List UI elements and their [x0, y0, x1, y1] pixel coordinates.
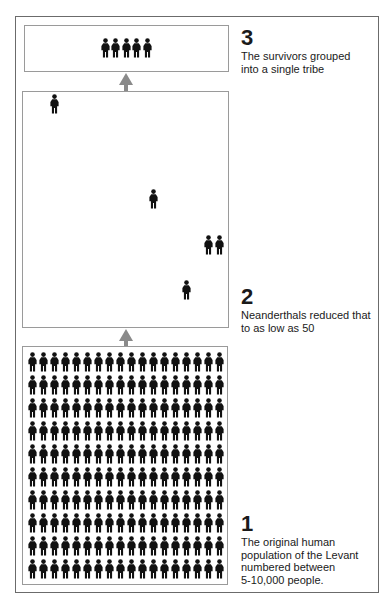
person-icon [71, 351, 82, 374]
person-icon [126, 466, 137, 489]
person-icon [214, 558, 225, 581]
person-icon [192, 466, 203, 489]
person-icon [214, 374, 225, 397]
person-icon [82, 374, 93, 397]
person-icon [148, 535, 159, 558]
person-icon [82, 512, 93, 535]
person-icon [104, 466, 115, 489]
person-icon [192, 443, 203, 466]
person-icon [82, 420, 93, 443]
person-icon [181, 512, 192, 535]
person-icon [115, 397, 126, 420]
person-icon [192, 489, 203, 512]
stage-description-line: 5-10,000 people. [241, 574, 358, 587]
person-icon [192, 374, 203, 397]
person-icon [159, 535, 170, 558]
person-icon [93, 397, 104, 420]
person-icon [38, 374, 49, 397]
person-icon [215, 235, 223, 254]
person-icon [93, 489, 104, 512]
person-icon [126, 512, 137, 535]
person-icon [82, 535, 93, 558]
person-icon [214, 351, 225, 374]
person-icon [170, 443, 181, 466]
person-icon [82, 466, 93, 489]
person-icon [203, 374, 214, 397]
person-icon [60, 512, 71, 535]
person-icon [49, 535, 60, 558]
person-icon [82, 558, 93, 581]
stage-1-label: 1 The original human population of the L… [241, 513, 358, 586]
person-icon [170, 374, 181, 397]
person-icon [49, 420, 60, 443]
stage-description-line: Neanderthals reduced that [241, 309, 371, 322]
person-icon [115, 512, 126, 535]
stage-3-label: 3 The survivors grouped into a single tr… [241, 27, 350, 75]
person-icon [38, 558, 49, 581]
person-icon [60, 397, 71, 420]
person-icon [148, 351, 159, 374]
person-icon [82, 351, 93, 374]
person-icon [170, 535, 181, 558]
person-icon [126, 351, 137, 374]
person-icon [181, 489, 192, 512]
person-icon [104, 535, 115, 558]
stage-2-box [22, 91, 229, 328]
person-icon [104, 558, 115, 581]
person-icon [122, 38, 130, 57]
person-icon [38, 535, 49, 558]
person-icon [214, 466, 225, 489]
person-icon [137, 466, 148, 489]
person-icon [203, 443, 214, 466]
person-icon [104, 512, 115, 535]
person-icon [49, 443, 60, 466]
person-icon [49, 512, 60, 535]
person-icon [49, 351, 60, 374]
person-icon [60, 374, 71, 397]
person-icon [132, 38, 140, 57]
person-icon [27, 535, 38, 558]
person-icon [159, 443, 170, 466]
person-icon [192, 512, 203, 535]
person-icon [214, 489, 225, 512]
person-icon [93, 351, 104, 374]
person-icon [60, 489, 71, 512]
person-icon [71, 443, 82, 466]
person-icon [49, 489, 60, 512]
person-icon [104, 397, 115, 420]
person-icon [115, 535, 126, 558]
person-icon [60, 443, 71, 466]
population-grid [27, 351, 225, 581]
person-icon [137, 443, 148, 466]
person-icon [49, 466, 60, 489]
person-icon [93, 512, 104, 535]
person-icon [27, 397, 38, 420]
person-icon [104, 420, 115, 443]
person-icon [93, 466, 104, 489]
person-icon [104, 351, 115, 374]
person-icon [143, 38, 151, 57]
person-icon [27, 558, 38, 581]
arrow-up-icon [119, 329, 133, 341]
person-icon [148, 397, 159, 420]
person-icon [181, 443, 192, 466]
person-icon [49, 558, 60, 581]
person-icon [60, 466, 71, 489]
person-icon [192, 351, 203, 374]
person-icon [126, 489, 137, 512]
stage-description-line: The original human [241, 536, 358, 549]
person-icon [214, 420, 225, 443]
person-icon [159, 397, 170, 420]
person-icon [27, 512, 38, 535]
person-icon [214, 397, 225, 420]
person-icon [71, 558, 82, 581]
person-icon [181, 420, 192, 443]
person-icon [148, 466, 159, 489]
stage-description-line: to as low as 50 [241, 322, 371, 335]
person-icon [137, 535, 148, 558]
person-icon [148, 420, 159, 443]
person-icon [82, 443, 93, 466]
person-icon [71, 489, 82, 512]
person-icon [126, 443, 137, 466]
person-icon [104, 374, 115, 397]
